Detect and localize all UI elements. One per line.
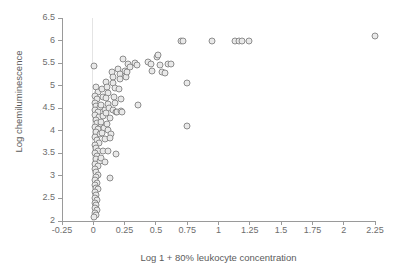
y-tick-label: 2.5 <box>42 193 55 202</box>
y-tick-label: 5 <box>50 81 55 90</box>
data-point <box>106 135 113 142</box>
data-point <box>101 159 108 166</box>
x-tick-label: 2.25 <box>366 226 384 235</box>
x-tick-label: -0.25 <box>52 226 73 235</box>
data-point <box>245 37 252 44</box>
data-point <box>372 33 379 40</box>
x-tick-label: 1.75 <box>304 226 322 235</box>
data-point <box>119 108 126 115</box>
data-point <box>180 37 187 44</box>
data-point <box>184 79 191 86</box>
x-tick-label: 1.5 <box>275 226 288 235</box>
data-point <box>209 38 216 45</box>
data-point <box>115 85 122 92</box>
x-tick-label: 1.25 <box>241 226 259 235</box>
data-point <box>167 61 174 68</box>
data-point <box>155 51 162 58</box>
data-point <box>184 123 191 130</box>
y-tick-label: 4 <box>50 126 55 135</box>
x-tick-label: 0.25 <box>116 226 134 235</box>
y-tick-label: 3 <box>50 171 55 180</box>
y-tick-label: 3.5 <box>42 148 55 157</box>
data-point <box>156 61 163 68</box>
y-tick-label: 2 <box>50 216 55 225</box>
data-point <box>105 148 112 155</box>
x-tick-label: 1 <box>216 226 221 235</box>
plot-area <box>62 18 375 221</box>
x-tick-label: 0 <box>91 226 96 235</box>
data-point <box>107 174 114 181</box>
data-point <box>161 70 168 77</box>
y-tick-label: 4.5 <box>42 103 55 112</box>
data-point <box>90 214 97 221</box>
y-tick-label: 5.5 <box>42 58 55 67</box>
y-tick-label: 6 <box>50 36 55 45</box>
data-point <box>149 67 156 74</box>
data-point <box>117 96 124 103</box>
y-tick-label: 6.5 <box>42 13 55 22</box>
data-point <box>134 62 141 69</box>
data-point <box>113 151 120 158</box>
x-axis-title: Log 1 + 80% leukocyte concentration <box>62 252 375 263</box>
data-point <box>135 102 142 109</box>
data-point <box>147 60 154 67</box>
x-tick-label: 2 <box>341 226 346 235</box>
x-tick-label: 0.5 <box>150 226 163 235</box>
y-axis-title: Log chemiluminescence <box>13 42 24 162</box>
data-point <box>90 63 97 70</box>
x-tick-label: 0.75 <box>178 226 196 235</box>
scatter-chart: 22.533.544.555.566.5 -0.2500.250.50.7511… <box>0 0 393 276</box>
